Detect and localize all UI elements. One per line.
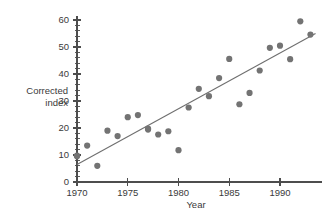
y-tick-label-40: 40 [58,68,69,79]
trend-line [77,34,316,165]
y-axis-title-line-1: Corrected [26,85,68,96]
axes-group [73,16,322,182]
data-point-1972 [94,163,100,169]
y-tick-label-60: 60 [58,14,69,25]
data-point-1990 [277,43,283,49]
data-point-1978 [155,131,161,137]
data-point-1981 [186,104,192,110]
regression-line [77,34,316,165]
scatter-plot-figure: 0102030405060 19701975198019851990 Corre… [0,0,330,214]
y-tick-label-50: 50 [58,41,69,52]
data-point-1988 [257,67,263,73]
data-point-1992 [297,18,303,24]
x-axis-title: Year [186,199,205,210]
data-point-1974 [115,133,121,139]
data-point-1979 [165,128,171,134]
data-point-1977 [145,127,151,133]
data-point-1971 [84,142,90,148]
data-point-1976 [135,112,141,118]
y-axis-title-line-2: index [45,97,68,108]
data-point-1993 [307,31,313,37]
y-tick-label-20: 20 [58,122,69,133]
x-tick-label-1980: 1980 [168,187,189,198]
data-point-1989 [267,45,273,51]
data-point-1985 [226,56,232,62]
data-point-1984 [216,75,222,81]
y-tick-label-10: 10 [58,149,69,160]
data-point-1987 [246,90,252,96]
x-tick-label-1990: 1990 [269,187,290,198]
y-tick-label-0: 0 [64,176,69,187]
data-point-1982 [196,86,202,92]
x-tick-label-1975: 1975 [117,187,138,198]
x-tick-label-1970: 1970 [66,187,87,198]
data-point-1991 [287,56,293,62]
chart-canvas: 0102030405060 19701975198019851990 Corre… [0,0,330,214]
data-point-1975 [125,114,131,120]
data-point-1983 [206,93,212,99]
x-axis-tick-labels: 19701975198019851990 [66,187,290,198]
y-axis-title: Corrected index [26,85,68,108]
data-point-1970 [74,153,80,159]
data-point-1973 [104,128,110,134]
x-tick-label-1985: 1985 [219,187,240,198]
data-point-1980 [175,147,181,153]
data-point-1986 [236,101,242,107]
